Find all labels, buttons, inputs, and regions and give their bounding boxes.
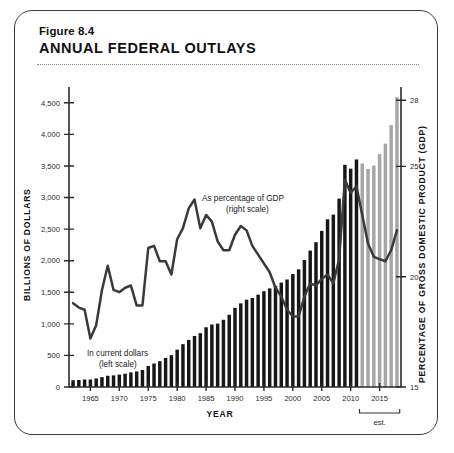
bar-1995 — [262, 291, 265, 387]
right-tick-label: 28 — [410, 96, 418, 105]
bar-1987 — [216, 324, 219, 387]
x-tick-label: 1970 — [111, 394, 128, 403]
bar-2018 — [395, 97, 398, 387]
bar-2016 — [384, 144, 387, 387]
left-tick-label: 3,500 — [41, 162, 60, 171]
x-tick-label: 1980 — [169, 394, 186, 403]
x-axis-ticks: 1965197019751980198519901995200020052010… — [82, 383, 388, 403]
bar-2010 — [349, 169, 352, 387]
x-tick-label: 1985 — [198, 394, 215, 403]
figure-card: Figure 8.4 ANNUAL FEDERAL OUTLAYS 05001,… — [14, 10, 438, 435]
annual-federal-outlays-chart: 05001,0001,5002,0002,5003,0003,5004,0004… — [15, 11, 438, 435]
bar-2017 — [389, 125, 392, 387]
bar-1999 — [285, 280, 288, 387]
bar-1981 — [181, 344, 184, 387]
x-axis-title: YEAR — [207, 409, 234, 419]
bar-1977 — [158, 361, 161, 387]
bar-1978 — [164, 358, 167, 387]
bar-2015 — [378, 154, 381, 387]
line-annotation-line1: As percentage of GDP — [202, 194, 284, 203]
bar-1991 — [239, 303, 242, 387]
left-tick-label: 2,500 — [41, 225, 60, 234]
line-annotation-line2: (right scale) — [226, 205, 269, 214]
left-tick-label: 3,000 — [41, 193, 60, 202]
left-tick-label: 1,500 — [41, 288, 60, 297]
left-tick-label: 1,000 — [41, 320, 60, 329]
bar-1976 — [152, 364, 155, 387]
bar-1974 — [141, 370, 144, 387]
bar-1962 — [71, 380, 74, 387]
bar-2004 — [314, 242, 317, 387]
bar-1979 — [170, 355, 173, 387]
bar-1983 — [193, 336, 196, 387]
bar-2000 — [291, 274, 294, 387]
bar-1982 — [187, 340, 190, 387]
bar-2012 — [361, 164, 364, 387]
bar-1969 — [112, 375, 115, 387]
bar-1985 — [204, 327, 207, 387]
bar-1963 — [77, 380, 80, 387]
left-tick-label: 4,000 — [41, 130, 60, 139]
left-tick-label: 4,500 — [41, 99, 60, 108]
bar-1980 — [175, 350, 178, 387]
bar-1997 — [274, 286, 277, 387]
right-axis-title: PERCENTAGE OF GROSS DOMESTIC PRODUCT (GD… — [417, 125, 427, 383]
bar-1973 — [135, 371, 138, 387]
bar-1968 — [106, 376, 109, 387]
chart-plot-area: 05001,0001,5002,0002,5003,0003,5004,0004… — [15, 11, 438, 435]
bar-2003 — [308, 251, 311, 387]
x-tick-label: 1990 — [227, 394, 244, 403]
x-tick-label: 1995 — [255, 394, 272, 403]
bar-1967 — [100, 377, 103, 387]
bar-1996 — [268, 288, 271, 387]
bar-2002 — [303, 260, 306, 387]
x-tick-label: 2010 — [342, 394, 359, 403]
bar-1990 — [233, 308, 236, 387]
x-tick-label: 2005 — [313, 394, 330, 403]
estimate-label: est. — [373, 418, 385, 427]
bars-annotation-line2: (left scale) — [99, 360, 137, 369]
bar-2014 — [372, 166, 375, 387]
bar-2001 — [297, 269, 300, 387]
bar-1971 — [123, 374, 126, 387]
x-tick-label: 2015 — [371, 394, 388, 403]
x-tick-label: 2000 — [284, 394, 301, 403]
x-tick-label: 1965 — [82, 394, 99, 403]
bar-1966 — [94, 378, 97, 387]
left-tick-label: 2,000 — [41, 256, 60, 265]
bar-2006 — [326, 219, 329, 387]
left-axis-title: BILLIONS OF DOLLARS — [22, 188, 32, 301]
x-tick-label: 1975 — [140, 394, 157, 403]
bar-1993 — [251, 298, 254, 387]
bar-1964 — [83, 379, 86, 387]
right-axis-ticks: 15202528 — [396, 96, 418, 392]
bars-annotation-line1: In current dollars — [87, 349, 148, 358]
bar-2005 — [320, 231, 323, 387]
bar-2007 — [332, 215, 335, 387]
bar-1994 — [256, 295, 259, 387]
bar-1992 — [245, 300, 248, 387]
right-tick-label: 15 — [410, 383, 418, 392]
bar-2013 — [366, 169, 369, 387]
left-tick-label: 0 — [56, 383, 60, 392]
bar-1989 — [227, 315, 230, 387]
estimate-bracket — [360, 409, 400, 413]
bar-1988 — [222, 320, 225, 387]
bar-1972 — [129, 372, 132, 387]
bar-1984 — [199, 333, 202, 387]
left-tick-label: 500 — [47, 351, 60, 360]
bar-1986 — [210, 324, 213, 387]
